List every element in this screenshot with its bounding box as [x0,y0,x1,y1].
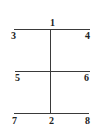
node-label-4: 4 [85,31,90,41]
node-label-6: 6 [84,73,89,83]
bottom-beam-line [14,113,89,114]
node-label-3: 3 [11,31,16,41]
node-label-2: 2 [49,116,54,126]
node-label-5: 5 [15,73,20,83]
node-label-7: 7 [12,116,17,126]
node-label-1: 1 [50,18,55,28]
node-label-8: 8 [85,116,90,126]
vertical-column-line [50,29,51,114]
frame-diagram: 1 3 4 5 6 7 2 8 [0,0,101,138]
top-beam-line [14,29,90,30]
middle-beam-line [15,71,90,72]
